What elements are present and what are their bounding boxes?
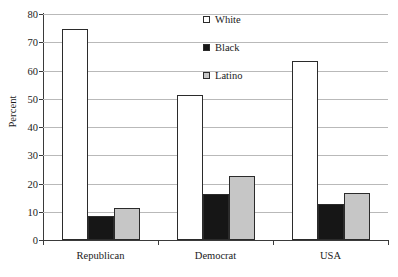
y-tick-mark-30 bbox=[39, 155, 43, 156]
y-tick-mark-40 bbox=[39, 127, 43, 128]
y-tick-label: 0 bbox=[33, 235, 38, 246]
y-tick-mark-10 bbox=[39, 212, 43, 213]
y-tick-mark-60 bbox=[39, 71, 43, 72]
y-tick-mark-50 bbox=[39, 99, 43, 100]
legend-entry-black: Black bbox=[203, 42, 242, 53]
gridline-0 bbox=[43, 240, 388, 241]
gridline-20 bbox=[43, 184, 388, 185]
x-category-label-usa: USA bbox=[320, 250, 341, 261]
gridline-50 bbox=[43, 99, 388, 100]
legend-swatch-icon-latino bbox=[203, 72, 210, 79]
y-tick-label: 20 bbox=[28, 178, 39, 189]
y-tick-label: 30 bbox=[28, 150, 39, 161]
y-axis-title: Percent bbox=[7, 72, 18, 152]
bar-republican-latino bbox=[114, 208, 140, 240]
legend-entry-white: White bbox=[203, 14, 242, 25]
y-tick-mark-80 bbox=[39, 14, 43, 15]
bar-republican-black bbox=[88, 216, 114, 240]
y-tick-mark-70 bbox=[39, 42, 43, 43]
y-tick-label: 40 bbox=[28, 122, 39, 133]
y-tick-label: 80 bbox=[28, 9, 39, 20]
bar-usa-latino bbox=[344, 193, 370, 240]
legend-label: White bbox=[215, 14, 241, 25]
gridline-40 bbox=[43, 127, 388, 128]
x-tick-mark bbox=[158, 240, 159, 245]
bar-democrat-white bbox=[177, 95, 203, 240]
legend-swatch-icon-white bbox=[203, 16, 210, 23]
x-tick-mark bbox=[43, 240, 44, 245]
legend-label: Black bbox=[215, 42, 240, 53]
gridline-30 bbox=[43, 155, 388, 156]
legend-entry-latino: Latino bbox=[203, 70, 242, 81]
x-category-label-republican: Republican bbox=[77, 250, 125, 261]
x-tick-mark bbox=[273, 240, 274, 245]
legend-swatch-icon-black bbox=[203, 44, 210, 51]
bar-democrat-latino bbox=[229, 176, 255, 240]
y-tick-label: 60 bbox=[28, 65, 39, 76]
legend-label: Latino bbox=[215, 70, 242, 81]
bar-usa-white bbox=[292, 61, 318, 240]
x-category-label-democrat: Democrat bbox=[195, 250, 236, 261]
y-tick-label: 10 bbox=[28, 206, 39, 217]
chart-legend: WhiteBlackLatino bbox=[203, 14, 242, 81]
bar-democrat-black bbox=[203, 194, 229, 240]
bar-usa-black bbox=[318, 204, 344, 240]
y-tick-mark-20 bbox=[39, 184, 43, 185]
bar-republican-white bbox=[62, 29, 88, 240]
bar-chart: Percent 01020304050607080 RepublicanDemo… bbox=[0, 0, 398, 277]
y-tick-label: 50 bbox=[28, 93, 39, 104]
y-tick-label: 70 bbox=[28, 37, 39, 48]
x-tick-mark bbox=[388, 240, 389, 245]
